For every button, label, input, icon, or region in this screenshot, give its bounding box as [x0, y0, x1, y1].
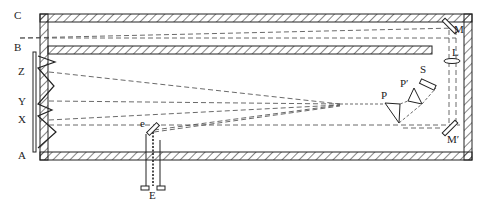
label-L: L: [452, 47, 459, 58]
label-e: e: [140, 118, 145, 129]
lens-L: [444, 59, 460, 64]
label-M-prime: M′: [447, 134, 459, 145]
label-B: B: [14, 42, 21, 53]
electrode-E: [141, 132, 165, 190]
photographic-plate: [33, 52, 36, 152]
label-E: E: [149, 190, 156, 201]
label-A: A: [18, 150, 26, 161]
label-C: C: [14, 10, 21, 21]
label-S: S: [420, 64, 426, 75]
inner-baffle: [48, 46, 432, 54]
spectrograph-diagram: C B Z Y X A M L S P′ P M′ e E: [0, 0, 497, 202]
prism-P-prime: [408, 88, 422, 104]
label-Z: Z: [18, 66, 25, 77]
source-S: [419, 79, 436, 90]
diagram-canvas: [0, 0, 497, 202]
label-Y: Y: [18, 96, 26, 107]
label-X: X: [18, 114, 26, 125]
label-P-prime: P′: [400, 78, 409, 89]
label-P: P: [381, 90, 387, 101]
label-M: M: [454, 24, 464, 35]
upper-channel-beams: [20, 28, 456, 38]
prism-P: [385, 103, 400, 123]
